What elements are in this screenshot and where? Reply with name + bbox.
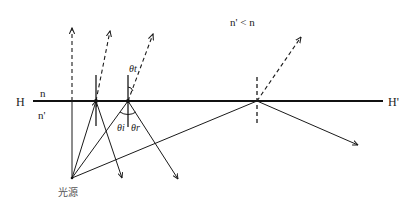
- label-condition: n' < n: [230, 16, 255, 28]
- label-n-prime: n': [38, 109, 46, 121]
- label-theta-r: θr: [131, 122, 140, 133]
- label-theta-i: θi: [117, 122, 125, 133]
- label-n: n: [40, 87, 46, 99]
- diagram-svg: H H' n n' n' < n θt θi θr 光源: [0, 0, 413, 210]
- label-theta-t: θt: [129, 63, 137, 74]
- refracted-rays: [72, 28, 301, 101]
- label-H: H: [16, 95, 25, 109]
- label-H-prime: H': [388, 95, 399, 109]
- label-source: 光源: [58, 186, 78, 198]
- refraction-diagram: H H' n n' n' < n θt θi θr 光源: [0, 0, 413, 210]
